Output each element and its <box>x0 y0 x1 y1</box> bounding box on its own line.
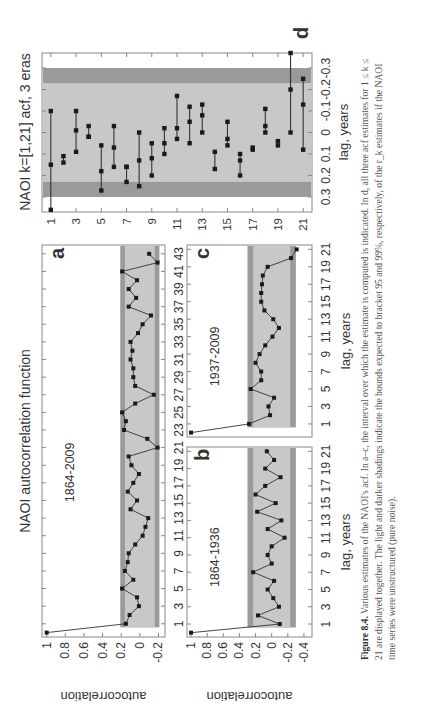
panel-c-x-tick-label: 17 <box>319 277 333 291</box>
panel-a-y-tick-label: 1 <box>40 642 54 649</box>
panel-c-xlabel: lag, years <box>338 312 353 369</box>
d-lag-tick-label: 19 <box>272 218 284 231</box>
panel-b-y-tick-label: -0.2 <box>281 642 295 663</box>
d-lag-tick-label: 1 <box>45 218 57 224</box>
panel-label-b: b <box>191 449 213 461</box>
panel-a-x-tick-label: 23 <box>172 423 186 437</box>
panel-a-x-tick-label: 13 <box>172 511 186 525</box>
panel-a-x-tick-label: 29 <box>172 370 186 384</box>
chart-panel-b: 10.80.60.40.20-0.2-0.4autocorrelation135… <box>184 444 353 704</box>
panel-b-x-tick-label: 15 <box>319 496 333 510</box>
panel-a-x-tick-label: 25 <box>172 405 186 419</box>
panel-a-x-tick-label: 19 <box>172 458 186 472</box>
panel-b-x-tick-label: 3 <box>319 603 333 610</box>
panel-a-x-tick-label: 31 <box>172 353 186 367</box>
panel-a-y-tick-label: 0.2 <box>114 642 128 659</box>
panel-a-x-tick-label: 35 <box>172 317 186 331</box>
panel-b-x-tick-label: 19 <box>319 462 333 476</box>
panel-b-x-tick-label: 1 <box>319 620 333 627</box>
panel-c-era: 1937-2009 <box>208 326 222 386</box>
panel-c-x-tick-label: 11 <box>319 330 333 343</box>
panel-b-y-tick-label: 0 <box>265 642 279 649</box>
d-lag-tick-label: 7 <box>121 218 133 224</box>
panels: 10.80.60.40.20-0.2autocorrelation1357911… <box>17 27 353 704</box>
panel-a-x-tick-label: 5 <box>172 585 186 592</box>
panel-a-y-tick-label: -0.2 <box>151 642 165 663</box>
panel-b-xlabel: lag, years <box>338 513 353 570</box>
panel-d-xlabel: lag, years <box>336 103 351 160</box>
panel-c-x-tick-label: 13 <box>319 312 333 326</box>
d-value-tick-label: 0.3 <box>319 188 333 205</box>
panel-b-x-tick-label: 5 <box>319 586 333 593</box>
main-title: NAOI autocorrelation function <box>17 349 33 533</box>
panel-b-y-tick-label: 0.6 <box>216 642 230 659</box>
panel-a-x-tick-label: 17 <box>172 476 186 490</box>
panel-c-x-tick-label: 7 <box>319 368 333 375</box>
panel-a-x-tick-label: 33 <box>172 335 186 349</box>
panel-a-y-tick-label: 0.4 <box>96 642 110 659</box>
panel-a-ylabel: autocorrelation <box>61 689 147 704</box>
panel-a-x-tick-label: 37 <box>172 300 186 314</box>
d-value-tick-label: 0.1 <box>319 145 333 162</box>
panel-a-x-tick-label: 27 <box>172 388 186 402</box>
panel-a-x-tick-label: 39 <box>172 282 186 296</box>
figure-stage: NAOI autocorrelation function 10.80.60.4… <box>0 0 422 722</box>
panel-a-era: 1864-2009 <box>63 442 77 502</box>
d-lag-tick-label: 13 <box>196 218 208 231</box>
panel-c-x-tick-label: 1 <box>319 420 333 427</box>
panel-b-y-tick-label: 0.8 <box>200 642 214 659</box>
panel-a-x-tick-label: 21 <box>172 441 186 455</box>
panel-a-x-tick-label: 7 <box>172 567 186 574</box>
panel-b-x-tick-label: 21 <box>319 444 333 458</box>
caption-label: Figure 8.4. <box>359 616 370 660</box>
d-lag-tick-label: 17 <box>247 218 259 231</box>
panel-b-y-tick-label: 1 <box>184 642 198 649</box>
figure-caption: Figure 8.4. Various estimates of the NAO… <box>358 50 399 660</box>
panel-b-x-tick-label: 17 <box>319 479 333 493</box>
panel-c-x-tick-label: 3 <box>319 403 333 410</box>
d-lag-tick-label: 21 <box>297 218 309 231</box>
panel-label-d: d <box>290 27 312 39</box>
panel-b-ylabel: autocorrelation <box>207 689 293 704</box>
panel-c-x-tick-label: 9 <box>319 350 333 357</box>
caption-text: Various estimates of the NAOI's acf. In … <box>359 59 397 660</box>
chart-panel-a: 10.80.60.40.20-0.2autocorrelation1357911… <box>40 245 186 704</box>
panel-label-c: c <box>191 248 213 259</box>
d-lag-tick-label: 11 <box>171 218 183 230</box>
d-value-tick-label: 0.2 <box>319 167 333 184</box>
panel-c-x-tick-label: 19 <box>319 260 333 274</box>
chart-panel-d: 0.30.20.10-0.1-0.2-0.313579111315171921d <box>42 27 333 231</box>
panel-a-x-tick-label: 1 <box>172 620 186 627</box>
panel-b-x-tick-label: 9 <box>319 551 333 558</box>
panel-a-x-tick-label: 11 <box>172 529 186 542</box>
panel-b-x-tick-label: 13 <box>319 513 333 527</box>
panel-b-y-tick-label: 0.2 <box>249 642 263 659</box>
panel-b-x-tick-label: 11 <box>319 531 333 544</box>
panel-b-y-tick-label: 0.4 <box>232 642 246 659</box>
panel-c-x-tick-label: 15 <box>319 295 333 309</box>
d-lag-tick-label: 15 <box>221 218 233 231</box>
panel-a-y-tick-label: 0.8 <box>58 642 72 659</box>
d-lag-tick-label: 3 <box>70 218 82 224</box>
panel-b-y-tick-label: -0.4 <box>297 642 311 663</box>
panel-a-y-tick-label: 0 <box>133 642 147 649</box>
d-value-tick-label: -0.1 <box>319 100 333 121</box>
panel-a-x-tick-label: 3 <box>172 603 186 610</box>
panel-b-x-tick-label: 7 <box>319 569 333 576</box>
panel-a-y-tick-label: 0.6 <box>77 642 91 659</box>
d-value-tick-label: -0.2 <box>319 79 333 100</box>
panel-a-x-tick-label: 43 <box>172 247 186 261</box>
d-lag-tick-label: 5 <box>95 218 107 224</box>
panel-a-x-tick-label: 9 <box>172 550 186 557</box>
panel-d-title: NAOI k=[1,21] acf, 3 eras <box>17 53 33 211</box>
d-value-tick-label: 0 <box>319 129 333 136</box>
d-value-tick-label: -0.3 <box>319 57 333 78</box>
panel-a-x-tick-label: 41 <box>172 264 186 278</box>
panel-a-x-tick-label: 15 <box>172 493 186 507</box>
d-lag-tick-label: 9 <box>146 218 158 224</box>
chart-panel-c: 13579111315171921lag, years1937-2009c <box>187 242 353 437</box>
panel-c-x-tick-label: 21 <box>319 242 333 256</box>
panel-label-a: a <box>46 247 68 259</box>
panel-b-era: 1864-1936 <box>208 527 222 587</box>
panel-c-x-tick-label: 5 <box>319 385 333 392</box>
